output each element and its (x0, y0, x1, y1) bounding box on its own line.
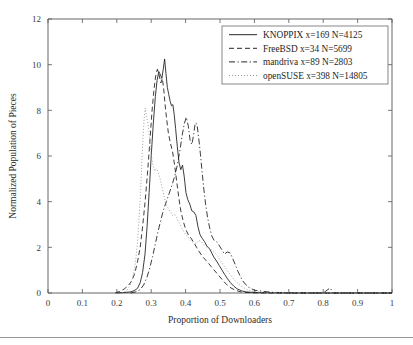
x-tick-label: 0.8 (318, 298, 330, 308)
figure-container: 00.10.20.30.40.50.60.70.80.91 024681012 … (0, 0, 413, 345)
distribution-chart: 00.10.20.30.40.50.60.70.80.91 024681012 … (0, 0, 413, 345)
x-tick-label: 0.5 (214, 298, 226, 308)
x-tick-label: 0.4 (180, 298, 192, 308)
y-tick-label: 0 (37, 288, 42, 298)
x-tick-label: 0 (46, 298, 51, 308)
x-axis-label: Proportion of Downloaders (168, 315, 272, 325)
x-tick-label: 0.2 (111, 298, 122, 308)
y-axis-label: Normalized Population of Pieces (8, 93, 18, 219)
x-tick-label: 0.9 (352, 298, 364, 308)
x-tick-label: 1 (390, 298, 395, 308)
legend-label-freebsd: FreeBSD x=34 N=5699 (263, 44, 352, 54)
x-tick-label: 0.1 (77, 298, 88, 308)
legend-label-opensuse: openSUSE x=398 N=14805 (263, 71, 368, 81)
y-tick-label: 8 (37, 106, 42, 116)
x-tick-label: 0.7 (283, 298, 295, 308)
y-tick-label: 6 (37, 151, 42, 161)
chart-legend: KNOPPIX x=169 N=4125FreeBSD x=34 N=5699m… (222, 26, 388, 84)
legend-label-mandriva: mandriva x=89 N=2803 (263, 57, 353, 67)
legend-label-knoppix: KNOPPIX x=169 N=4125 (263, 30, 363, 40)
x-tick-label: 0.3 (146, 298, 158, 308)
y-tick-label: 10 (32, 60, 42, 70)
y-tick-label: 4 (37, 197, 42, 207)
y-tick-label: 12 (32, 14, 41, 24)
x-tick-label: 0.6 (249, 298, 261, 308)
y-tick-label: 2 (37, 243, 42, 253)
